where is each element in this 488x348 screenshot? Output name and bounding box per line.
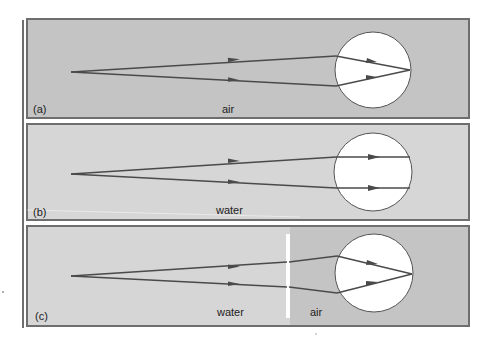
air-water-interface — [286, 234, 290, 318]
panel-b-medium-label: water — [216, 205, 243, 216]
panel-c — [27, 226, 469, 326]
panel-b — [27, 124, 469, 220]
panel-a-tag: (a) — [33, 104, 46, 115]
left-rule — [22, 20, 24, 328]
optics-diagram — [0, 0, 488, 348]
panel-a — [27, 19, 469, 118]
panel-c-left-medium-label: water — [217, 307, 244, 318]
panel-c-right-medium-label: air — [310, 307, 322, 318]
panel-c-tag: (c) — [35, 311, 48, 322]
panel-a-medium-label: air — [222, 104, 234, 115]
panel-b-tag: (b) — [33, 207, 46, 218]
